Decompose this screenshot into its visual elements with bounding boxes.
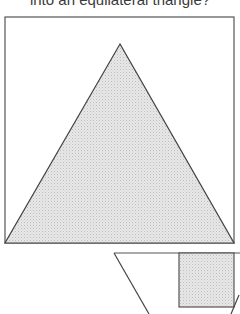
diagram-canvas bbox=[0, 0, 240, 314]
shaded-square-piece bbox=[179, 253, 234, 307]
square-with-triangle-figure bbox=[5, 17, 234, 243]
dissection-pieces-figure bbox=[114, 253, 240, 314]
left-slant-line bbox=[114, 253, 149, 314]
